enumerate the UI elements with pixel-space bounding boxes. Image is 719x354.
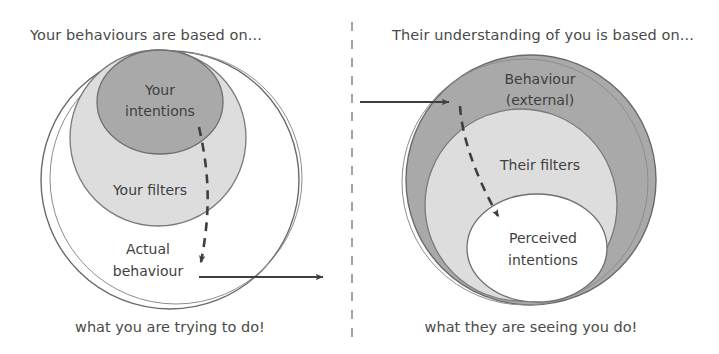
svg-text:Actual: Actual — [126, 241, 170, 257]
right-panel: Their understanding of you is based on..… — [360, 27, 694, 335]
left-label-your-filters: Your filters — [112, 182, 187, 198]
svg-text:intentions: intentions — [508, 252, 578, 268]
svg-text:Perceived: Perceived — [509, 230, 577, 246]
svg-text:Behaviour: Behaviour — [504, 71, 575, 87]
left-circle-your-intentions — [97, 50, 223, 154]
right-label-their-filters: Their filters — [499, 157, 580, 173]
left-panel-footer: what you are trying to do! — [75, 319, 265, 335]
svg-text:Your: Your — [144, 82, 175, 98]
left-panel-heading: Your behaviours are based on... — [29, 27, 262, 43]
diagram-canvas: Your behaviours are based on... Your int… — [0, 0, 719, 354]
right-circle-perceived-intentions — [467, 194, 607, 302]
svg-text:Your filters: Your filters — [112, 182, 187, 198]
svg-text:(external): (external) — [506, 92, 575, 108]
right-panel-heading: Their understanding of you is based on..… — [391, 27, 694, 43]
right-panel-footer: what they are seeing you do! — [425, 319, 638, 335]
svg-text:behaviour: behaviour — [113, 263, 184, 279]
svg-text:Their filters: Their filters — [499, 157, 580, 173]
intentions-perception-diagram: Your behaviours are based on... Your int… — [0, 0, 719, 354]
svg-text:intentions: intentions — [125, 103, 195, 119]
left-panel: Your behaviours are based on... Your int… — [29, 27, 323, 335]
